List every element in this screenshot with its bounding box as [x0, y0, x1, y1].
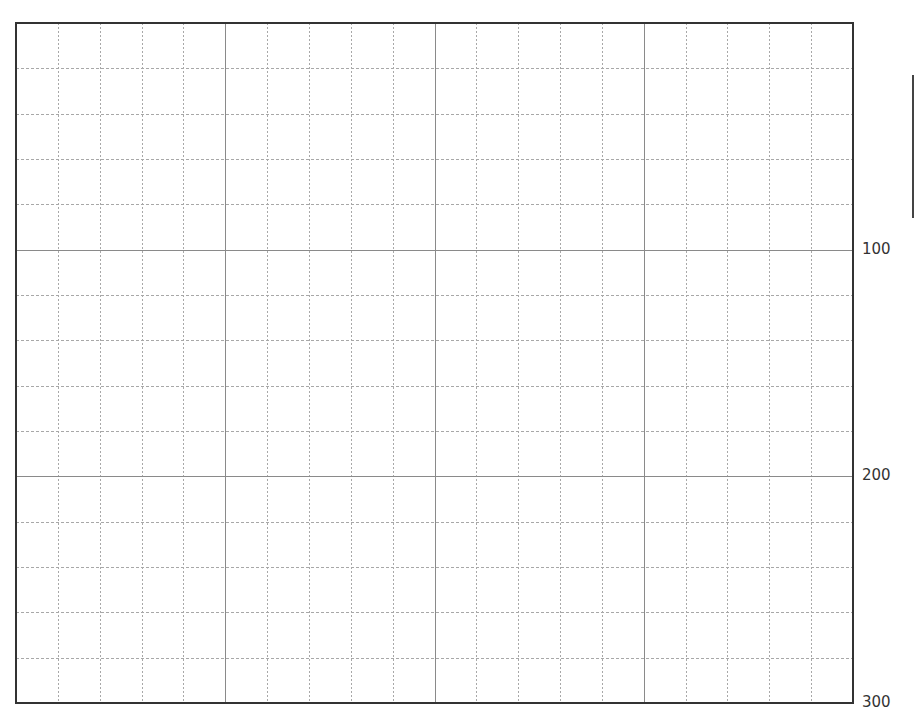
grid-paper: [0, 0, 915, 725]
axis-label-300: 300: [862, 695, 891, 710]
panel-edge: [912, 75, 914, 218]
axis-label-100: 100: [862, 242, 891, 257]
axis-label-200: 200: [862, 468, 891, 483]
